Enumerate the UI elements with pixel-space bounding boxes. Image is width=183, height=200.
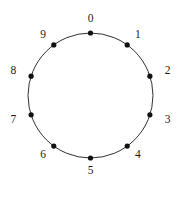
vertex-label-0: 0 bbox=[88, 12, 94, 24]
vertex-dot-4 bbox=[125, 144, 130, 149]
vertex-dot-2 bbox=[147, 74, 152, 79]
cycle-graph-svg: 0123456789 bbox=[0, 0, 183, 200]
vertex-label-9: 9 bbox=[40, 28, 46, 40]
figure-canvas: 0123456789 bbox=[0, 0, 183, 200]
vertex-label-2: 2 bbox=[165, 64, 171, 76]
vertex-dot-7 bbox=[29, 112, 34, 117]
vertex-label-8: 8 bbox=[11, 64, 17, 76]
vertex-dot-5 bbox=[88, 155, 93, 160]
vertex-dot-3 bbox=[147, 112, 152, 117]
vertex-label-4: 4 bbox=[135, 148, 141, 160]
vertex-label-7: 7 bbox=[11, 113, 17, 125]
vertex-label-5: 5 bbox=[88, 164, 94, 176]
vertex-label-1: 1 bbox=[135, 28, 141, 40]
vertex-dot-1 bbox=[125, 42, 130, 47]
vertex-dot-9 bbox=[51, 42, 56, 47]
vertex-label-3: 3 bbox=[165, 113, 171, 125]
vertex-dot-8 bbox=[29, 74, 34, 79]
vertex-dot-6 bbox=[51, 144, 56, 149]
vertex-label-6: 6 bbox=[40, 148, 46, 160]
vertex-dot-0 bbox=[88, 30, 93, 35]
